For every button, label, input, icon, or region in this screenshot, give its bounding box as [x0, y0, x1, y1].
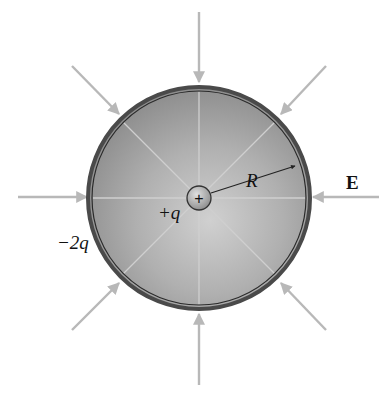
shell-charge-label: −2q	[57, 232, 89, 254]
field-arrow-bottom-left	[72, 283, 119, 330]
field-label: E	[346, 172, 359, 194]
plus-sign-icon: +	[194, 190, 203, 207]
inner-charge-label: +q	[158, 202, 180, 224]
field-arrow-top-right	[281, 66, 326, 114]
field-arrow-bottom-right	[281, 283, 326, 330]
radius-label: R	[246, 170, 258, 192]
field-arrow-top-left	[72, 66, 119, 114]
diagram-canvas: +	[0, 0, 392, 400]
